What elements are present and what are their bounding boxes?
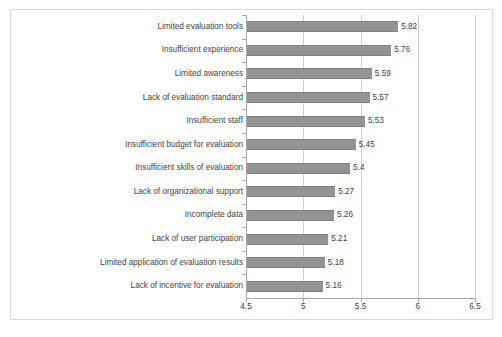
x-tick-label: 6.5: [455, 302, 495, 312]
bar-value-label: 5.26: [337, 210, 353, 220]
category-tick-mark: [242, 15, 246, 16]
bar-value-label: 5.76: [394, 45, 410, 55]
bar-row: Incomplete data5.26: [0, 204, 502, 228]
category-label: Insufficient staff: [23, 116, 243, 126]
category-label: Insufficient experience: [23, 45, 243, 55]
category-tick-mark: [242, 180, 246, 181]
category-label: Limited application of evaluation result…: [23, 258, 243, 268]
category-tick-mark: [242, 86, 246, 87]
category-tick-mark: [242, 227, 246, 228]
bar[interactable]: [247, 186, 335, 197]
bar-value-label: 5.82: [401, 22, 417, 32]
bar[interactable]: [247, 210, 334, 221]
bar-row: Lack of evaluation standard5.57: [0, 86, 502, 110]
category-label: Limited evaluation tools: [23, 22, 243, 32]
bar[interactable]: [247, 21, 398, 32]
bar-row: Limited evaluation tools5.82: [0, 15, 502, 39]
bar-row: Lack of incentive for evaluation5.16: [0, 274, 502, 298]
x-tick-label: 5: [283, 302, 323, 312]
bar[interactable]: [247, 163, 350, 174]
bar-value-label: 5.21: [331, 234, 347, 244]
category-tick-mark: [242, 62, 246, 63]
bar[interactable]: [247, 92, 370, 103]
bar-row: Insufficient budget for evaluation5.45: [0, 133, 502, 157]
bar[interactable]: [247, 234, 328, 245]
chart-figure: Limited evaluation tools5.82Insufficient…: [0, 0, 502, 337]
bar-value-label: 5.57: [373, 93, 389, 103]
category-label: Lack of evaluation standard: [23, 93, 243, 103]
bar-row: Limited application of evaluation result…: [0, 251, 502, 275]
category-tick-mark: [242, 133, 246, 134]
bar-row: Insufficient skills of evaluation5.4: [0, 157, 502, 181]
category-label: Limited awareness: [23, 69, 243, 79]
category-label: Lack of user participation: [23, 234, 243, 244]
bar-row: Lack of organizational support5.27: [0, 180, 502, 204]
x-tick-label: 6: [398, 302, 438, 312]
bar-value-label: 5.16: [326, 281, 342, 291]
bar[interactable]: [247, 257, 325, 268]
bar-value-label: 5.45: [359, 140, 375, 150]
bar-row: Insufficient staff5.53: [0, 109, 502, 133]
category-tick-mark: [242, 274, 246, 275]
x-tick-label: 4.5: [226, 302, 266, 312]
bar-value-label: 5.53: [368, 116, 384, 126]
bar[interactable]: [247, 139, 356, 150]
bar-value-label: 5.27: [338, 187, 354, 197]
category-tick-mark: [242, 251, 246, 252]
bar[interactable]: [247, 281, 323, 292]
bar-row: Limited awareness5.59: [0, 62, 502, 86]
bar[interactable]: [247, 116, 365, 127]
category-tick-mark: [242, 157, 246, 158]
category-label: Incomplete data: [23, 210, 243, 220]
category-label: Lack of organizational support: [23, 187, 243, 197]
bar-value-label: 5.18: [328, 258, 344, 268]
category-label: Lack of incentive for evaluation: [23, 281, 243, 291]
category-tick-mark: [242, 39, 246, 40]
bar-row: Insufficient experience5.76: [0, 39, 502, 63]
category-label: Insufficient budget for evaluation: [23, 140, 243, 150]
bar[interactable]: [247, 68, 372, 79]
category-tick-mark: [242, 204, 246, 205]
bar-value-label: 5.4: [353, 163, 364, 173]
bar-row: Lack of user participation5.21: [0, 227, 502, 251]
bar[interactable]: [247, 45, 391, 56]
x-tick-label: 5.5: [341, 302, 381, 312]
bar-value-label: 5.59: [375, 69, 391, 79]
category-label: Insufficient skills of evaluation: [23, 163, 243, 173]
category-tick-mark: [242, 109, 246, 110]
caption-strip: [0, 330, 502, 337]
